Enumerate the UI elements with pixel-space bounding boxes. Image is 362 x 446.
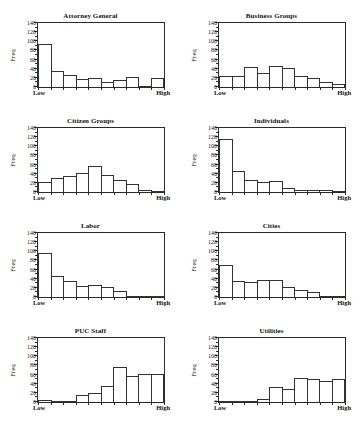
x-axis-tick [257, 297, 258, 300]
y-axis-minor-tick [35, 342, 38, 343]
y-axis-tick-label: 40 [211, 66, 217, 72]
histogram-bar [294, 190, 308, 192]
x-axis-tick [76, 192, 77, 195]
histogram-bar [126, 184, 140, 192]
y-axis-tick-label: 100 [208, 248, 217, 254]
histogram-bar [282, 188, 296, 192]
histogram-bar [63, 176, 77, 192]
x-axis-tick [244, 192, 245, 195]
y-axis-minor-tick [35, 237, 38, 238]
y-axis-tick-label: 120 [208, 134, 217, 140]
y-axis-minor-tick [35, 387, 38, 388]
histogram-bar [269, 280, 283, 297]
y-axis-minor-tick [216, 72, 219, 73]
x-axis-tick [307, 192, 308, 195]
histogram-bar [332, 84, 346, 87]
y-axis-tick-label: 100 [27, 248, 36, 254]
y-axis-tick-label: 140 [27, 125, 36, 131]
y-axis-title: Freq [9, 337, 16, 403]
x-axis-tick [126, 192, 127, 195]
histogram-figure: Attorney GeneralFreq020406080100120140Lo… [0, 0, 362, 446]
y-axis-minor-tick [216, 282, 219, 283]
histogram-bar [76, 173, 90, 192]
y-axis-tick-label: 40 [211, 381, 217, 387]
y-axis-minor-tick [216, 351, 219, 352]
y-axis-title-label: Freq [9, 49, 16, 62]
y-axis-minor-tick [35, 246, 38, 247]
x-axis-tick [295, 402, 296, 405]
y-axis-tick-label: 40 [211, 171, 217, 177]
y-axis-tick-label: 40 [30, 66, 36, 72]
y-axis-title-label: Freq [9, 364, 16, 377]
y-axis-tick-label: 60 [30, 57, 36, 63]
clipped-caption-strip [0, 0, 362, 9]
y-axis-minor-tick [35, 186, 38, 187]
x-axis-tick [126, 402, 127, 405]
y-axis-tick-label: 60 [211, 162, 217, 168]
y-axis-minor-tick [216, 54, 219, 55]
x-axis-tick [88, 297, 89, 300]
y-axis-minor-tick [35, 264, 38, 265]
histogram-bar [63, 401, 77, 402]
x-axis-high-label: High [156, 90, 170, 97]
y-axis-tick-label: 140 [208, 20, 217, 26]
y-axis-title: Freq [190, 337, 197, 403]
x-axis-tick [88, 192, 89, 195]
x-axis-tick [257, 402, 258, 405]
y-axis-minor-tick [35, 141, 38, 142]
y-axis-tick-label: 120 [27, 344, 36, 350]
x-axis-tick [332, 192, 333, 195]
y-axis-minor-tick [216, 246, 219, 247]
y-axis-tick-label: 120 [208, 29, 217, 35]
histogram-bar [244, 67, 258, 87]
y-axis-tick-label: 60 [30, 372, 36, 378]
y-axis-minor-tick [216, 45, 219, 46]
histogram-bar [138, 296, 152, 297]
x-axis-low-label: Low [214, 90, 226, 97]
histogram-bar [257, 73, 271, 87]
bar-series [38, 23, 164, 87]
histogram-bar [232, 171, 246, 192]
y-axis-tick-label: 20 [211, 390, 217, 396]
histogram-bar [138, 190, 152, 192]
histogram-bar [307, 190, 321, 192]
histogram-bar [113, 291, 127, 297]
y-axis-tick-label: 100 [208, 38, 217, 44]
histogram-bar [244, 282, 258, 297]
x-axis-tick [282, 402, 283, 405]
panel-title: Labor [0, 222, 181, 230]
histogram-bar [88, 393, 102, 402]
bar-series [219, 338, 345, 402]
y-axis-minor-tick [35, 177, 38, 178]
x-axis-tick [332, 87, 333, 90]
y-axis-minor-tick [35, 54, 38, 55]
x-axis-tick [307, 402, 308, 405]
x-axis-tick [295, 192, 296, 195]
histogram-bar [76, 395, 90, 402]
histogram-bar [51, 276, 65, 297]
x-axis-tick [63, 297, 64, 300]
y-axis-minor-tick [216, 27, 219, 28]
y-axis-tick-label: 20 [211, 285, 217, 291]
x-axis-tick [139, 297, 140, 300]
histogram-bar [151, 78, 165, 87]
x-axis-high-label: High [337, 195, 351, 202]
histogram-bar [307, 78, 321, 87]
x-axis-tick [139, 87, 140, 90]
y-axis-tick-label: 20 [30, 180, 36, 186]
histogram-bar [307, 292, 321, 297]
histogram-bar [282, 287, 296, 298]
y-axis-title: Freq [190, 22, 197, 88]
x-axis-tick [51, 402, 52, 405]
x-axis-low-label: Low [33, 195, 45, 202]
plot-area: 020406080100120140LowHigh [218, 232, 346, 298]
histogram-bar [257, 182, 271, 193]
y-axis-minor-tick [216, 63, 219, 64]
plot-area: 020406080100120140LowHigh [37, 232, 165, 298]
x-axis-low-label: Low [33, 300, 45, 307]
y-axis-tick-label: 80 [30, 47, 36, 53]
x-axis-tick [139, 402, 140, 405]
histogram-bar [282, 68, 296, 87]
y-axis-tick-label: 40 [30, 171, 36, 177]
x-axis-tick [282, 87, 283, 90]
